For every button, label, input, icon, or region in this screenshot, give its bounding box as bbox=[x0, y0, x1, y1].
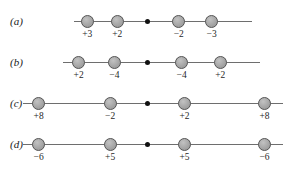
row-label-b: (b) bbox=[10, 56, 23, 68]
charge-row-c: (c)+8−2+2+8 bbox=[0, 88, 286, 131]
charge-label: +2 bbox=[74, 70, 84, 80]
charge-row-a: (a)+3+2−2−3 bbox=[0, 6, 286, 49]
charge-circle bbox=[72, 56, 85, 69]
axis-line bbox=[74, 21, 251, 22]
center-point-d bbox=[145, 142, 150, 147]
charge-circle bbox=[214, 56, 227, 69]
charge-label: −2 bbox=[105, 111, 115, 121]
charge-circle bbox=[178, 97, 191, 110]
charge-circle bbox=[108, 56, 121, 69]
charge-label: −2 bbox=[174, 29, 184, 39]
charge-label: +5 bbox=[179, 152, 189, 162]
charge-label: −6 bbox=[34, 152, 44, 162]
charge-circle bbox=[172, 15, 185, 28]
charge-arrangement-figure: (a)+3+2−2−3(b)+2−4−4+2(c)+8−2+2+8(d)−6+5… bbox=[0, 0, 286, 172]
charge-label: +5 bbox=[105, 152, 115, 162]
charge-row-d: (d)−6+5+5−6 bbox=[0, 129, 286, 172]
charge-label: −6 bbox=[259, 152, 269, 162]
charge-circle bbox=[175, 56, 188, 69]
charge-circle bbox=[81, 15, 94, 28]
charge-label: −4 bbox=[109, 70, 119, 80]
charge-row-b: (b)+2−4−4+2 bbox=[0, 47, 286, 90]
axis-line bbox=[23, 103, 283, 104]
axis-line bbox=[23, 144, 283, 145]
charge-circle bbox=[111, 15, 124, 28]
charge-label: −3 bbox=[207, 29, 217, 39]
row-label-a: (a) bbox=[10, 15, 23, 27]
center-point-c bbox=[145, 101, 150, 106]
charge-circle bbox=[104, 97, 117, 110]
charge-label: +2 bbox=[179, 111, 189, 121]
charge-circle bbox=[258, 138, 271, 151]
charge-label: +8 bbox=[34, 111, 44, 121]
charge-label: +3 bbox=[82, 29, 92, 39]
charge-circle bbox=[258, 97, 271, 110]
charge-label: +2 bbox=[112, 29, 122, 39]
row-label-c: (c) bbox=[10, 97, 22, 109]
center-point-b bbox=[145, 60, 150, 65]
charge-label: −4 bbox=[177, 70, 187, 80]
charge-circle bbox=[104, 138, 117, 151]
charge-circle bbox=[178, 138, 191, 151]
charge-label: +2 bbox=[215, 70, 225, 80]
charge-circle bbox=[32, 138, 45, 151]
axis-line bbox=[63, 62, 260, 63]
center-point-a bbox=[145, 19, 150, 24]
charge-circle bbox=[32, 97, 45, 110]
charge-circle bbox=[205, 15, 218, 28]
charge-label: +8 bbox=[259, 111, 269, 121]
row-label-d: (d) bbox=[10, 138, 23, 150]
